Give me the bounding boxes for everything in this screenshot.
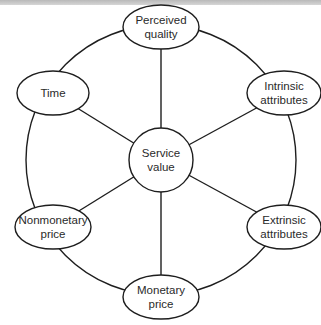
center-circle-shape bbox=[129, 128, 193, 192]
node-label-line: price bbox=[41, 228, 66, 240]
ellipse-shape bbox=[123, 275, 199, 319]
node-label-line: attributes bbox=[260, 228, 308, 240]
node-intrinsic-attributes: Intrinsicattributes bbox=[247, 71, 321, 115]
node-label-line: Monetary bbox=[137, 284, 185, 296]
diagram-nodes: PerceivedqualityIntrinsicattributesExtri… bbox=[15, 5, 321, 319]
node-extrinsic-attributes: Extrinsicattributes bbox=[247, 205, 321, 249]
node-label-line: Intrinsic bbox=[264, 80, 304, 92]
node-label-line: Nonmonetary bbox=[18, 214, 87, 226]
ellipse-shape bbox=[247, 205, 321, 249]
node-label-line: attributes bbox=[260, 94, 308, 106]
ellipse-shape bbox=[15, 205, 91, 249]
node-label-line: quality bbox=[144, 28, 177, 40]
ellipse-shape bbox=[123, 5, 199, 49]
node-label-line: Perceived bbox=[135, 14, 186, 26]
node-label-line: price bbox=[149, 298, 174, 310]
service-value-diagram: PerceivedqualityIntrinsicattributesExtri… bbox=[0, 0, 321, 325]
node-label-line: Service bbox=[142, 147, 180, 159]
node-label-line: Time bbox=[40, 87, 65, 99]
node-monetary-price: Monetaryprice bbox=[123, 275, 199, 319]
node-service-value: Servicevalue bbox=[129, 128, 193, 192]
node-nonmonetary-price: Nonmonetaryprice bbox=[15, 205, 91, 249]
node-label-line: value bbox=[147, 161, 175, 173]
node-label-line: Extrinsic bbox=[262, 214, 306, 226]
node-perceived-quality: Perceivedquality bbox=[123, 5, 199, 49]
ellipse-shape bbox=[247, 71, 321, 115]
node-time: Time bbox=[17, 71, 89, 115]
